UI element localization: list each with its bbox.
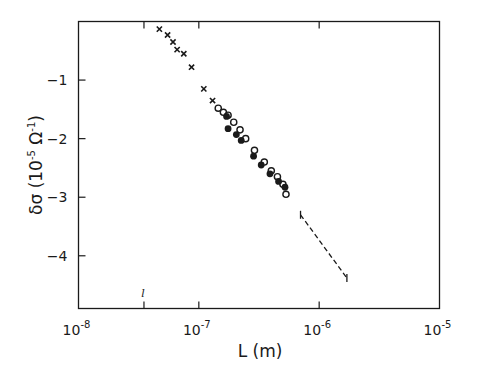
series-dashed-extrapolation: [301, 211, 347, 282]
cross-marker: [201, 86, 206, 91]
x-tick-label: 10-6: [303, 319, 331, 338]
cross-marker: [175, 47, 180, 52]
mean-free-path-marker: l: [141, 22, 145, 309]
y-tick-label: −2: [47, 131, 68, 147]
filled-circle-marker: [238, 137, 245, 144]
x-tick-label: 10-8: [63, 319, 91, 338]
data-series: [157, 27, 347, 283]
y-tick-label: −4: [47, 248, 68, 264]
y-axis-ticks: [79, 80, 86, 256]
extrapolation-line: [301, 215, 347, 278]
x-tick-label: 10-5: [424, 319, 452, 338]
cross-marker: [165, 32, 170, 37]
x-tick-label: 10-7: [183, 319, 211, 338]
filled-circle-marker: [225, 125, 232, 132]
x-axis-label: L (m): [238, 341, 283, 361]
cross-marker: [210, 98, 215, 103]
l-label: l: [141, 287, 145, 300]
open-circle-marker: [283, 191, 289, 197]
x-tick-labels: 10-810-710-610-5: [63, 319, 452, 338]
filled-circle-marker: [258, 162, 265, 169]
open-circle-marker: [231, 119, 237, 125]
filled-circle-marker: [250, 153, 257, 160]
filled-circle-marker: [282, 184, 289, 191]
cross-marker: [170, 39, 175, 44]
open-circle-marker: [251, 147, 257, 153]
chart: 10-810-710-610-5 −1−2−3−4 L (m) δσ (10-5…: [0, 0, 477, 374]
filled-circle-marker: [267, 170, 274, 177]
series-crosses: [157, 27, 215, 104]
y-tick-label: −3: [47, 189, 68, 205]
filled-circle-marker: [275, 178, 282, 185]
filled-circle-marker: [233, 131, 240, 138]
cross-marker: [189, 65, 194, 70]
y-tick-label: −1: [47, 72, 68, 88]
y-axis-label: δσ (10-5 Ω-1): [26, 115, 46, 215]
y-tick-labels: −1−2−3−4: [47, 72, 68, 264]
cross-marker: [181, 51, 186, 56]
filled-circle-marker: [223, 113, 230, 120]
cross-marker: [157, 27, 162, 32]
